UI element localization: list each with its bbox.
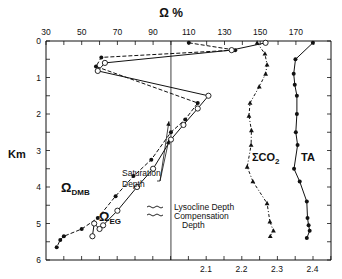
top-tick-label: 90 [148, 27, 158, 37]
filled-circle-marker [196, 101, 200, 105]
y-tick-label: 6 [36, 255, 41, 265]
open-circle-marker [181, 122, 186, 127]
y-tick-label: 1 [36, 73, 41, 83]
top-tick-label: 110 [182, 27, 196, 37]
filled-circle-marker [293, 83, 297, 87]
co2-series-label: ΣCO2 [252, 151, 280, 166]
axis-ticks: 305070901101301501702.12.22.32.40123456 [36, 27, 331, 274]
filled-circle-marker [307, 223, 311, 227]
y-tick-label: 4 [36, 182, 41, 192]
triangle-marker [249, 128, 254, 132]
open-circle-marker [229, 48, 234, 53]
filled-circle-marker [295, 94, 299, 98]
filled-circle-marker [292, 167, 296, 171]
compensation-wavy-icon [147, 214, 163, 216]
filled-circle-marker [298, 180, 302, 184]
lysocline-wavy-icon [147, 206, 163, 208]
open-circle-marker [90, 234, 95, 239]
depth-profile-chart: 305070901101301501702.12.22.32.40123456 … [0, 0, 342, 279]
top-tick-label: 70 [113, 27, 123, 37]
compensation-label-2: Depth [182, 220, 205, 230]
open-circle-marker [92, 221, 97, 226]
ta-series-label: TA [301, 151, 315, 163]
top-tick-label: 170 [289, 27, 303, 37]
open-circle-marker [97, 226, 102, 231]
filled-circle-marker [305, 236, 309, 240]
bottom-tick-label: 2.1 [200, 264, 212, 274]
top-tick-label: 50 [77, 27, 87, 37]
triangle-marker [250, 179, 255, 183]
top-axis-title: Ω % [159, 6, 183, 20]
filled-circle-marker [293, 57, 297, 61]
filled-circle-marker [296, 143, 300, 147]
bottom-tick-label: 2.3 [271, 264, 283, 274]
filled-circle-marker [169, 130, 173, 134]
open-circle-marker [263, 40, 268, 45]
filled-circle-marker [80, 227, 84, 231]
filled-circle-marker [306, 216, 310, 220]
open-circle-marker [95, 68, 100, 73]
filled-circle-marker [295, 112, 299, 116]
filled-circle-marker [149, 158, 153, 162]
saturation-label-2: Depth [122, 179, 145, 189]
bottom-tick-label: 2.4 [307, 264, 319, 274]
filled-circle-marker [308, 229, 312, 233]
series-ta [292, 41, 315, 240]
open-circle-marker [102, 60, 107, 65]
filled-circle-marker [292, 72, 296, 76]
top-tick-label: 30 [41, 27, 51, 37]
triangle-marker [263, 71, 268, 75]
filled-circle-marker [114, 194, 118, 198]
triangle-marker [245, 164, 250, 168]
filled-circle-marker [55, 245, 59, 249]
triangle-marker [248, 100, 253, 104]
filled-circle-marker [58, 238, 62, 242]
triangle-marker [257, 84, 262, 88]
y-tick-label: 3 [36, 146, 41, 156]
bottom-tick-label: 2.2 [236, 264, 248, 274]
y-tick-label: 5 [36, 219, 41, 229]
filled-circle-marker [305, 200, 309, 204]
triangle-marker [271, 228, 276, 232]
triangle-marker [249, 142, 254, 146]
filled-circle-marker [187, 41, 191, 45]
filled-circle-marker [294, 130, 298, 134]
y-tick-label: 0 [36, 36, 41, 46]
filled-circle-marker [62, 234, 66, 238]
top-tick-label: 150 [253, 27, 267, 37]
top-tick-label: 130 [217, 27, 231, 37]
triangle-marker [268, 219, 273, 223]
filled-circle-marker [99, 55, 103, 59]
triangle-marker [265, 62, 270, 66]
triangle-marker [247, 113, 252, 117]
y-tick-label: 2 [36, 109, 41, 119]
dmb-series-label: ΩDMB [61, 180, 90, 197]
y-axis-title: Km [8, 148, 26, 160]
filled-circle-marker [311, 41, 315, 45]
open-circle-marker [195, 106, 200, 111]
open-circle-marker [206, 93, 211, 98]
open-circle-marker [115, 208, 120, 213]
series--co2 [245, 40, 276, 238]
saturation-label-1: Saturation [122, 168, 161, 178]
